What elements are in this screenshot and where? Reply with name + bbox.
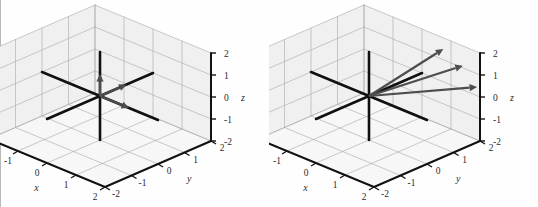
y-axis-label: y	[186, 173, 192, 184]
y-tick-label: -1	[139, 178, 147, 188]
y-tick-label: 0	[167, 166, 172, 176]
x-tick	[100, 187, 105, 190]
z-axis-label: z	[509, 92, 514, 103]
left-axes-svg: -2-1012210-1-2210-1-2xyz	[0, 0, 269, 207]
x-tick	[71, 175, 76, 178]
x-tick-label: -1	[4, 156, 12, 166]
figure-container: -2-1012210-1-2210-1-2xyz -2-1012210-1-22…	[0, 0, 538, 207]
x-tick-label: 1	[64, 180, 69, 190]
right-axes-svg: -2-1012210-1-2210-1-2xyz	[269, 0, 538, 207]
z-tick-label: 1	[224, 71, 229, 81]
z-tick-label: 0	[224, 93, 229, 103]
x-tick	[282, 151, 287, 154]
x-tick	[42, 163, 47, 166]
x-tick	[369, 187, 374, 190]
x-tick-label: 0	[304, 168, 309, 178]
x-tick	[13, 151, 18, 154]
x-tick-label: 2	[93, 192, 98, 202]
y-tick	[158, 164, 163, 167]
y-axis-label: y	[455, 173, 461, 184]
y-tick-label: -2	[381, 189, 389, 199]
x-axis-label: x	[33, 182, 39, 193]
z-tick-label: 2	[224, 49, 229, 59]
z-tick-label: 2	[493, 49, 498, 59]
z-tick-label: 1	[493, 71, 498, 81]
y-tick	[132, 176, 137, 179]
y-tick	[427, 164, 432, 167]
y-tick	[105, 187, 110, 190]
y-tick	[374, 187, 379, 190]
x-tick	[340, 175, 345, 178]
y-tick-label: 1	[462, 155, 467, 165]
right-plot-panel: -2-1012210-1-2210-1-2xyz	[269, 0, 538, 207]
x-tick-label: 2	[362, 192, 367, 202]
x-tick	[311, 163, 316, 166]
y-tick-label: 1	[193, 155, 198, 165]
z-axis-label: z	[240, 92, 245, 103]
y-tick-label: -1	[408, 178, 416, 188]
x-tick-label: 1	[333, 180, 338, 190]
left-plot-panel: -2-1012210-1-2210-1-2xyz	[0, 0, 269, 207]
x-tick-label: -1	[273, 156, 281, 166]
z-tick-label: -2	[224, 137, 232, 147]
z-tick-label: 0	[493, 93, 498, 103]
z-tick-label: -1	[224, 115, 232, 125]
y-tick	[454, 153, 459, 156]
z-tick-label: -1	[493, 115, 501, 125]
y-tick-label: 0	[436, 166, 441, 176]
x-tick-label: 0	[35, 168, 40, 178]
y-tick	[401, 176, 406, 179]
x-axis-label: x	[302, 182, 308, 193]
y-tick	[185, 153, 190, 156]
y-tick-label: -2	[112, 189, 120, 199]
z-tick-label: -2	[493, 137, 501, 147]
